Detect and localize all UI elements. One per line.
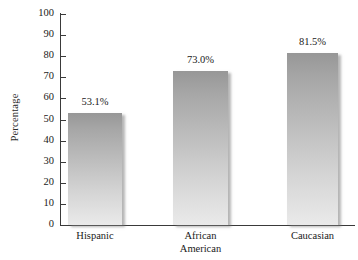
bar [287,53,338,225]
plot-area: 53.1%73.0%81.5% [0,0,358,260]
bar-value-label: 53.1% [53,96,137,107]
bar-value-label: 81.5% [272,36,353,47]
x-axis-category-label: Caucasian [262,230,358,243]
bar [173,71,228,225]
bar-value-label: 73.0% [158,54,243,65]
bar-chart: Percentage 0102030405060708090100 53.1%7… [0,0,358,260]
x-axis-category-label: Hispanic [43,230,147,243]
x-axis-category-label: African American [148,230,253,255]
bar [68,113,122,225]
